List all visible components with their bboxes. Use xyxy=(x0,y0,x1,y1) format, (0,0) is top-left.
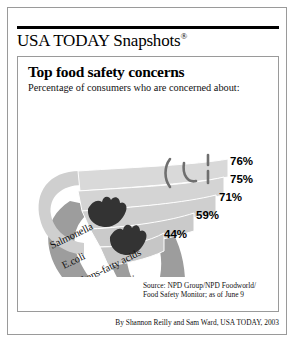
byline: By Shannon Reilly and Sam Ward, USA TODA… xyxy=(7,318,287,327)
chart-panel: Top food safety concerns Percentage of c… xyxy=(17,56,279,312)
brand-name: USA TODAY Snapshots xyxy=(17,31,180,50)
source-note: Source: NPD Group/NPD Foodworld/ Food Sa… xyxy=(143,281,271,300)
snapshot-graphic: USA TODAY Snapshots® Top food safety con… xyxy=(0,0,295,343)
header-rule xyxy=(17,26,279,29)
bar-value-foot-and-mouth: 44% xyxy=(164,228,187,240)
source-line-1: Source: NPD Group/NPD Foodworld/ xyxy=(143,281,271,290)
page-subtitle: Percentage of consumers who are concerne… xyxy=(28,82,240,93)
bar-value-ecoli: 75% xyxy=(230,173,253,185)
brand-title: USA TODAY Snapshots® xyxy=(17,31,279,51)
bar-value-salmonella: 76% xyxy=(230,155,253,167)
bar-value-trans-fatty-acids: 71% xyxy=(219,191,242,203)
bar-value-mercury: 59% xyxy=(196,209,219,221)
fork-ribbon-chart: Salmonella E.coli Trans-fatty acids Merc… xyxy=(18,97,279,277)
chart-svg: Salmonella E.coli Trans-fatty acids Merc… xyxy=(18,97,279,277)
source-line-2: Food Safety Monitor; as of June 9 xyxy=(143,290,271,299)
registered-mark: ® xyxy=(180,31,187,41)
page-title: Top food safety concerns xyxy=(28,63,184,81)
